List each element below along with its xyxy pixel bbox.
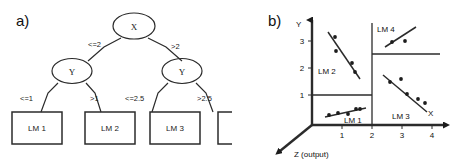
- data-point: [350, 61, 354, 65]
- data-point: [390, 40, 394, 44]
- region-lm3: LM 3: [383, 75, 427, 121]
- data-point: [353, 70, 357, 74]
- tree-leaf-lm3-label: LM 3: [166, 124, 184, 133]
- data-point: [333, 35, 337, 39]
- tree-node-right-y-label: Y: [179, 67, 186, 77]
- x-axis-label: X: [428, 109, 434, 118]
- x-tick-label-2: 2: [370, 131, 375, 140]
- region-lm4: LM 4: [377, 25, 416, 47]
- data-point: [354, 107, 358, 111]
- y-tick-label-1: 1: [300, 91, 305, 100]
- region-lm1: LM 1: [325, 107, 366, 125]
- panel-b-partition-plot: b) Y X Z (output) 1 2 3 4 1 2 3: [232, 0, 464, 161]
- edge-label-right-left: <=2.5: [125, 94, 144, 103]
- y-axis-label: Y: [296, 20, 302, 29]
- tree-leaf-lm2-label: LM 2: [101, 124, 119, 133]
- panel-b-label: b): [268, 12, 281, 29]
- region-label-lm2: LM 2: [318, 67, 336, 76]
- data-point: [327, 113, 331, 117]
- region-label-lm3: LM 3: [392, 112, 410, 121]
- edge-left-left: [41, 83, 58, 112]
- data-point: [388, 80, 392, 84]
- region-lm2: LM 2: [318, 32, 360, 79]
- region-label-lm4: LM 4: [377, 25, 395, 34]
- edge-right-left: [152, 83, 168, 112]
- z-axis-label: Z (output): [294, 150, 329, 159]
- data-point: [416, 97, 420, 101]
- data-point: [399, 77, 403, 81]
- data-point: [336, 111, 340, 115]
- x-tick-label-3: 3: [400, 131, 405, 140]
- data-point: [423, 101, 427, 105]
- tree-node-left-y-label: Y: [69, 67, 76, 77]
- x-tick-label-4: 4: [430, 131, 435, 140]
- tree-leaf-lm4[interactable]: [218, 112, 232, 144]
- tree-leaf-lm1-label: LM 1: [28, 124, 46, 133]
- x-ticks: 1 2 3 4: [340, 125, 435, 140]
- edge-label-right-right: >2.5: [197, 94, 212, 103]
- region-label-lm1: LM 1: [344, 116, 362, 125]
- panel-a-decision-tree: a) <=2 >2 <=1 >1 <=2.5 >2.5 X Y Y LM 1 L…: [0, 0, 232, 161]
- data-point: [334, 49, 338, 53]
- edge-label-left-right: >1: [90, 94, 99, 103]
- edge-label-root-left: <=2: [88, 40, 101, 49]
- x-tick-label-1: 1: [340, 131, 345, 140]
- z-axis: [280, 125, 312, 151]
- data-point: [405, 92, 409, 96]
- data-point: [358, 107, 362, 111]
- data-point: [403, 39, 407, 43]
- y-tick-label-3: 3: [300, 37, 305, 46]
- figure-root: a) <=2 >2 <=1 >1 <=2.5 >2.5 X Y Y LM 1 L…: [0, 0, 464, 161]
- panel-a-label: a): [16, 12, 29, 29]
- edge-label-left-left: <=1: [20, 94, 33, 103]
- edge-label-root-right: >2: [171, 42, 180, 51]
- y-ticks: 1 2 3: [300, 37, 312, 100]
- tree-node-root-label: X: [131, 22, 138, 32]
- y-tick-label-2: 2: [300, 64, 305, 73]
